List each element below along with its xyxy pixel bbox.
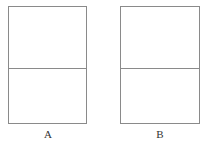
panel-a-divider-line	[9, 68, 86, 69]
panel-b-divider-line	[121, 68, 199, 69]
panel-b-rectangle	[120, 6, 200, 124]
panel-b-label: B	[150, 128, 170, 140]
panel-a-label: A	[38, 128, 58, 140]
panel-a-rectangle	[8, 6, 87, 124]
